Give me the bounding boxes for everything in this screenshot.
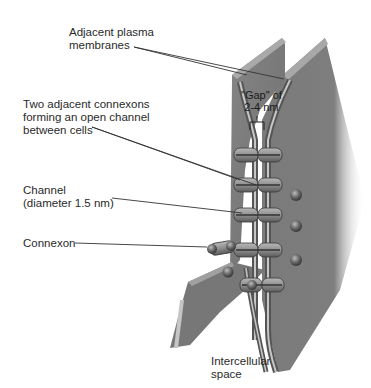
label-gap-width: "Gap" of 2-4 nm xyxy=(241,89,282,113)
label-intercellular-space: Intercellular space xyxy=(211,355,270,381)
label-adjacent-plasma-membranes: Adjacent plasma membranes xyxy=(69,26,154,52)
label-channel-diameter: Channel (diameter 1.5 nm) xyxy=(23,184,114,210)
gap-junction-diagram: Adjacent plasma membranes Two adjacent c… xyxy=(0,0,371,388)
label-connexon: Connexon xyxy=(23,237,75,250)
label-two-adjacent-connexons: Two adjacent connexons forming an open c… xyxy=(23,98,150,137)
